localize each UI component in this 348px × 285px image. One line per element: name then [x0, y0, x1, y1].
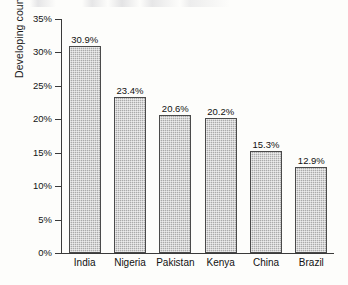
y-axis-tick-label: 5%	[18, 214, 52, 225]
y-axis-tick	[55, 52, 62, 53]
bar-value-label: 15.3%	[253, 139, 280, 150]
y-axis-tick-label: 20%	[18, 113, 52, 124]
y-axis-tick-label: 15%	[18, 147, 52, 158]
y-axis-tick-label: 30%	[18, 46, 52, 57]
y-axis-tick-label: 25%	[18, 80, 52, 91]
plot-area: 30.9%23.4%20.6%20.2%15.3%12.9%	[62, 19, 334, 253]
y-axis-tick-label-wrap: 10%	[14, 186, 52, 187]
x-axis-category-label: India	[74, 257, 96, 268]
x-axis-category-label: Kenya	[206, 257, 234, 268]
x-axis-line	[62, 253, 334, 254]
y-axis-tick-label: 10%	[18, 180, 52, 191]
y-axis-tick-label: 35%	[18, 13, 52, 24]
y-axis-tick	[55, 253, 62, 254]
bar-kenya: 20.2%	[205, 118, 237, 253]
y-axis-tick	[55, 119, 62, 120]
bar-value-label: 12.9%	[298, 155, 325, 166]
y-axis-tick	[55, 220, 62, 221]
cropped-title-remnant	[30, 0, 240, 7]
bar-india: 30.9%	[69, 46, 101, 253]
bar-value-label: 23.4%	[117, 85, 144, 96]
y-axis-tick-label-wrap: 20%	[14, 119, 52, 120]
bar-brazil: 12.9%	[295, 167, 327, 253]
y-axis-title: Developing countries (tariff rate)	[13, 0, 27, 78]
bar-pakistan: 20.6%	[159, 115, 191, 253]
y-axis-tick-label-wrap: 25%	[14, 86, 52, 87]
y-axis-tick	[55, 153, 62, 154]
bar-value-label: 30.9%	[71, 34, 98, 45]
x-axis-category-label: Nigeria	[114, 257, 146, 268]
y-axis-tick-label: 0%	[18, 247, 52, 258]
bar-chart-figure: Developing countries (tariff rate) 0%5%1…	[0, 0, 348, 285]
bar-value-label: 20.6%	[162, 103, 189, 114]
y-axis-tick	[55, 186, 62, 187]
y-axis-tick	[55, 86, 62, 87]
bar-nigeria: 23.4%	[114, 97, 146, 253]
x-axis-category-label: Brazil	[299, 257, 324, 268]
y-axis-tick	[55, 19, 62, 20]
x-axis-category-label: China	[253, 257, 279, 268]
bar-china: 15.3%	[250, 151, 282, 253]
y-axis-tick-label-wrap: 30%	[14, 52, 52, 53]
x-axis-category-label: Pakistan	[156, 257, 194, 268]
y-axis-tick-label-wrap: 0%	[14, 253, 52, 254]
y-axis-tick-label-wrap: 15%	[14, 153, 52, 154]
bar-value-label: 20.2%	[207, 106, 234, 117]
y-axis-tick-label-wrap: 5%	[14, 220, 52, 221]
y-axis-tick-label-wrap: 35%	[14, 19, 52, 20]
